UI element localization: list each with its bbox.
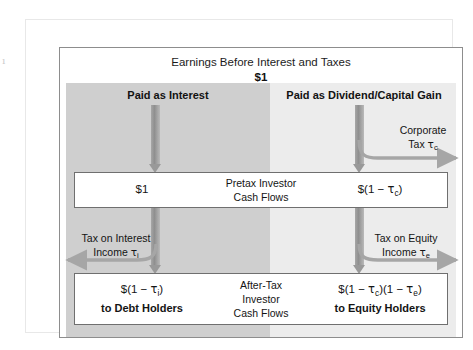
pretax-left-amount: $1 <box>136 182 149 198</box>
pretax-left-cell: $1 <box>75 173 209 207</box>
pretax-cash-flow-box: $1 Pretax Investor Cash Flows $(1 − τc) <box>74 172 448 208</box>
caption-paid-as-dividend: Paid as Dividend/Capital Gain <box>270 89 458 101</box>
ebit-header: Earnings Before Interest and Taxes $1 <box>60 55 462 84</box>
aftertax-left-amount: $(1 − τi) <box>121 282 163 298</box>
ebit-title: Earnings Before Interest and Taxes <box>60 55 462 70</box>
aftertax-center-line1: After-Tax <box>240 278 282 292</box>
tau-symbol: τ <box>419 246 425 258</box>
arrow-shaft <box>151 105 160 164</box>
caption-paid-as-interest: Paid as Interest <box>66 89 270 101</box>
tau-symbol: τ <box>368 282 375 296</box>
tau-subscript: c <box>394 189 398 198</box>
interest-tax-line2: Income τi <box>68 246 164 260</box>
tau-subscript: e <box>413 289 418 298</box>
equity-tax-line1: Tax on Equity <box>356 232 456 246</box>
tau-subscript: c <box>375 289 379 298</box>
tau-subscript: i <box>137 251 139 260</box>
equity-tax-line2: Income τe <box>356 246 456 260</box>
corporate-tax-line1: Corporate <box>390 124 456 138</box>
interest-tax-line1: Tax on Interest <box>68 232 164 246</box>
pretax-center-line2: Cash Flows <box>234 190 289 204</box>
aftertax-center-cell: After-Tax Investor Cash Flows <box>209 274 313 324</box>
tau-symbol: τ <box>428 138 434 150</box>
label-interest-tax: Tax on Interest Income τi <box>68 232 164 259</box>
ebit-amount: $1 <box>60 70 462 85</box>
arrow-shaft <box>355 105 364 164</box>
tau-subscript: c <box>434 143 438 152</box>
aftertax-center-line3: Cash Flows <box>234 306 289 320</box>
label-equity-tax: Tax on Equity Income τe <box>356 232 456 259</box>
corporate-tax-line2: Tax τc <box>390 138 456 152</box>
aftertax-right-amount: $(1 − τc)(1 − τe) <box>338 282 421 298</box>
pretax-right-cell: $(1 − τc) <box>313 173 447 207</box>
page-edge-artifact: ¹ <box>2 56 12 70</box>
equity-holders-label: to Equity Holders <box>335 301 426 316</box>
diagram-panel: Earnings Before Interest and Taxes $1 Pa… <box>59 47 463 338</box>
pretax-center-cell: Pretax Investor Cash Flows <box>209 173 313 207</box>
aftertax-left-cell: $(1 − τi) to Debt Holders <box>75 274 209 324</box>
label-corporate-tax: Corporate Tax τc <box>390 124 456 151</box>
pretax-center-line1: Pretax Investor <box>226 176 297 190</box>
aftertax-center-line2: Investor <box>242 292 279 306</box>
debt-holders-label: to Debt Holders <box>101 301 183 316</box>
tau-subscript: e <box>426 251 430 260</box>
aftertax-right-cell: $(1 − τc)(1 − τe) to Equity Holders <box>313 274 447 324</box>
pretax-right-amount: $(1 − τc) <box>358 182 403 198</box>
aftertax-cash-flow-box: $(1 − τi) to Debt Holders After-Tax Inve… <box>74 273 448 325</box>
figure-frame: Earnings Before Interest and Taxes $1 Pa… <box>26 20 452 332</box>
